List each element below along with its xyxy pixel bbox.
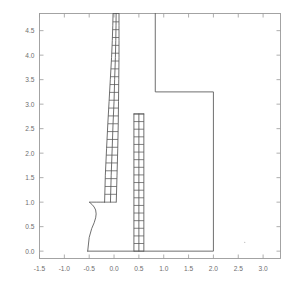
plot-canvas: -1.5-1.0-0.50.00.51.01.52.02.53.00.00.51…	[0, 0, 294, 291]
x-tick-label: -0.5	[84, 265, 96, 272]
x-tick-label: 3.0	[259, 265, 268, 272]
y-tick-label: 0.5	[25, 223, 34, 230]
plot-frame	[40, 14, 281, 259]
x-tick-label: -1.0	[59, 265, 71, 272]
outer-boundary	[88, 14, 214, 252]
x-tick-label: 1.0	[159, 265, 168, 272]
y-tick-label: 3.5	[25, 76, 34, 83]
x-tick-label: 0.0	[109, 265, 118, 272]
y-tick-label: 1.0	[25, 199, 34, 206]
y-tick-label: 1.5	[25, 174, 34, 181]
x-tick-label: -1.5	[34, 265, 46, 272]
nose-curve	[88, 202, 105, 251]
y-tick-label: 3.0	[25, 101, 34, 108]
mesh-geometry-plot: -1.5-1.0-0.50.00.51.01.52.02.53.00.00.51…	[0, 0, 294, 291]
x-tick-label: 1.5	[184, 265, 193, 272]
x-tick-label: 0.5	[134, 265, 143, 272]
y-tick-label: 2.0	[25, 150, 34, 157]
stray-dot	[244, 242, 245, 243]
x-tick-label: 2.0	[209, 265, 218, 272]
y-tick-label: 4.0	[25, 52, 34, 59]
y-tick-label: 0.0	[25, 248, 34, 255]
x-tick-label: 2.5	[234, 265, 243, 272]
y-tick-label: 4.5	[25, 27, 34, 34]
y-tick-label: 2.5	[25, 125, 34, 132]
